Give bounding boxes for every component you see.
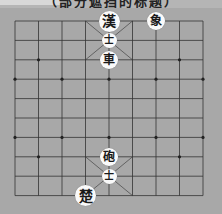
position-marker	[201, 78, 204, 81]
position-marker	[13, 78, 16, 81]
position-marker	[13, 136, 16, 139]
position-marker	[154, 78, 157, 81]
position-marker	[178, 155, 181, 158]
position-marker	[107, 136, 110, 139]
piece-bottom-advisor[interactable]: 士	[102, 169, 117, 184]
title-bar: （部分遮挡的标题）	[0, 0, 222, 8]
window-caption: （部分遮挡的标题）	[0, 0, 222, 8]
position-marker	[201, 136, 204, 139]
position-marker	[37, 58, 40, 61]
position-marker	[154, 136, 157, 139]
position-marker	[107, 78, 110, 81]
position-marker	[60, 78, 63, 81]
piece-bottom-cannon[interactable]: 砲	[100, 148, 118, 166]
xiangqi-board[interactable]: 漢象士車砲士楚	[0, 8, 222, 214]
piece-han-general[interactable]: 漢	[99, 11, 120, 32]
piece-top-chariot[interactable]: 車	[100, 51, 118, 69]
position-marker	[60, 136, 63, 139]
piece-chu-general[interactable]: 楚	[75, 185, 96, 206]
position-marker	[178, 58, 181, 61]
piece-top-elephant[interactable]: 象	[147, 12, 165, 30]
position-marker	[37, 155, 40, 158]
piece-top-advisor[interactable]: 士	[102, 33, 117, 48]
